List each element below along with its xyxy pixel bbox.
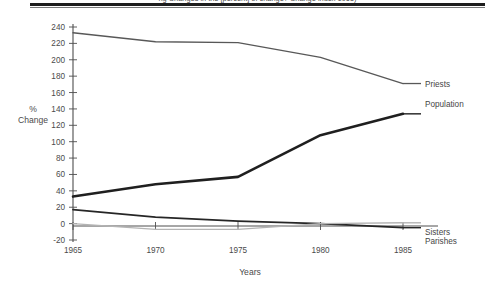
y-axis-title-line1: % [29, 104, 37, 114]
chart-figure: ng Changes in the [percent] of change? C… [0, 0, 494, 285]
chart-plot-area: 240220200180160140120100806040200-20 196… [0, 0, 494, 285]
chart-series [73, 33, 421, 230]
y-tick-label: 180 [51, 72, 65, 81]
chart-series-labels: PriestsPopulationSistersParishes [425, 80, 464, 246]
x-tick-label: 1975 [229, 246, 248, 255]
y-tick-label: 80 [56, 154, 66, 163]
x-tick-label: 1985 [394, 246, 413, 255]
y-tick-label: 140 [51, 105, 65, 114]
x-tick-label: 1980 [311, 246, 330, 255]
y-tick-label: 240 [51, 23, 65, 32]
series-line-priests [73, 33, 403, 84]
y-tick-label: 160 [51, 89, 65, 98]
series-label-population: Population [425, 100, 464, 109]
y-tick-label: 60 [56, 170, 66, 179]
y-tick-label: 200 [51, 56, 65, 65]
x-axis-title: Years [239, 267, 261, 277]
x-tick-label: 1970 [146, 246, 165, 255]
y-tick-label: 0 [60, 220, 65, 229]
series-line-population [73, 114, 403, 197]
y-tick-label: -20 [53, 236, 65, 245]
y-tick-label: 100 [51, 138, 65, 147]
series-label-sisters: Sisters [425, 228, 450, 237]
y-axis-title-line2: Change [18, 115, 48, 125]
y-tick-label: 120 [51, 121, 65, 130]
series-label-parishes: Parishes [425, 237, 457, 246]
series-label-priests: Priests [425, 80, 450, 89]
x-tick-label: 1965 [64, 246, 83, 255]
y-tick-label: 40 [56, 187, 66, 196]
y-tick-label: 20 [56, 203, 66, 212]
y-tick-label: 220 [51, 39, 65, 48]
